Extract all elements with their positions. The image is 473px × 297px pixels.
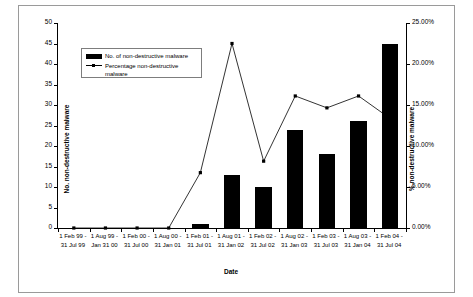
line-marker — [167, 226, 170, 229]
y-axis-primary-tick-label: 40 — [45, 60, 52, 67]
y-axis-primary-tick — [54, 208, 58, 209]
y-axis-primary-tick-label: 30 — [45, 101, 52, 108]
x-axis-title: Date — [57, 268, 405, 275]
y-axis-primary-tick-label: 45 — [45, 40, 52, 47]
x-axis-tick-labels: 1 Feb 99 -31 Jul 991 Aug 99 -Jan 31 001 … — [57, 232, 405, 262]
y-axis-primary-tick-label: 5 — [48, 204, 52, 211]
bar — [224, 175, 240, 228]
y-axis-secondary-tick-label: 25.00% — [412, 19, 434, 26]
legend-entry-line: Percentage non-destructive malware — [86, 62, 197, 78]
y-axis-secondary-tick-label: 20.00% — [412, 60, 434, 67]
bar — [382, 44, 398, 229]
line-marker — [357, 94, 360, 97]
y-axis-primary-tick — [54, 105, 58, 106]
legend-label-bars: No. of non-destructive malware — [105, 52, 188, 60]
y-axis-primary-tick-label: 20 — [45, 142, 52, 149]
line-marker — [325, 106, 328, 109]
chart-figure: No. non-destructive malware % non-destru… — [18, 5, 455, 293]
y-axis-secondary-tick-label: 0.00% — [412, 224, 430, 231]
y-axis-secondary-tick-label: 10.00% — [412, 142, 434, 149]
line-marker — [135, 226, 138, 229]
line-marker — [230, 42, 233, 45]
y-axis-secondary-tick — [406, 187, 410, 188]
y-axis-primary-tick-label: 25 — [45, 122, 52, 129]
y-axis-primary-tick — [54, 187, 58, 188]
y-axis-secondary-tick-label: 5.00% — [412, 183, 430, 190]
bar — [255, 187, 271, 228]
y-axis-primary-tick — [54, 23, 58, 24]
y-axis-primary-tick — [54, 146, 58, 147]
line-marker — [262, 160, 265, 163]
y-axis-primary-tick-label: 0 — [48, 224, 52, 231]
legend-entry-bars: No. of non-destructive malware — [86, 52, 188, 60]
y-axis-primary-tick — [54, 85, 58, 86]
y-axis-primary-tick — [54, 64, 58, 65]
chart-legend: No. of non-destructive malware Percentag… — [81, 48, 202, 78]
line-marker-swatch-icon — [86, 62, 102, 69]
line-marker — [294, 94, 297, 97]
y-axis-primary-tick — [54, 126, 58, 127]
y-axis-secondary-tick-label: 15.00% — [412, 101, 434, 108]
y-axis-primary-tick — [54, 44, 58, 45]
y-axis-primary-tick-label: 10 — [45, 183, 52, 190]
y-axis-primary-tick-label: 15 — [45, 163, 52, 170]
y-axis-primary-tick-label: 35 — [45, 81, 52, 88]
y-axis-secondary-tick — [406, 105, 410, 106]
line-marker — [199, 171, 202, 174]
legend-label-line: Percentage non-destructive malware — [105, 62, 197, 78]
y-axis-primary-tick — [54, 167, 58, 168]
line-marker — [104, 226, 107, 229]
bar — [319, 154, 335, 228]
y-axis-secondary-tick — [406, 146, 410, 147]
y-axis-secondary-tick — [406, 64, 410, 65]
x-axis-tick-label: 1 Feb 04 -31 Jul 04 — [362, 232, 416, 249]
bar — [287, 130, 303, 228]
bar — [350, 121, 366, 228]
bar-swatch-icon — [86, 54, 102, 59]
y-axis-primary-tick-label: 50 — [45, 19, 52, 26]
line-marker — [72, 226, 75, 229]
y-axis-secondary-title: % non-destructive malware — [407, 107, 414, 191]
bar — [192, 224, 208, 228]
y-axis-secondary-tick — [406, 23, 410, 24]
